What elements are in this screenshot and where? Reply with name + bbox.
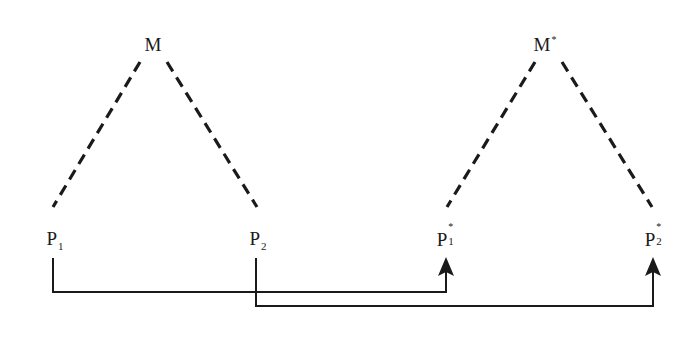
node-m-star-sup: * (551, 34, 556, 45)
node-p2: P2 (249, 229, 266, 248)
arrow-connectors (53, 258, 653, 306)
edge-mstar-p2star (562, 62, 652, 207)
edge-mstar-p1star (447, 62, 535, 207)
node-p2-star-sup: * (656, 222, 661, 232)
node-p1-star-sub: 1 (448, 236, 454, 247)
node-p1-sub: 1 (58, 240, 64, 252)
node-p1-star-sup: * (448, 222, 453, 232)
edge-m-p1 (53, 62, 140, 207)
arrowheads (438, 257, 661, 276)
node-p1-star: P*1 (437, 227, 456, 249)
node-p2-sub: 2 (261, 240, 267, 252)
node-p2-star-scripts: *2 (655, 227, 663, 246)
diagram-canvas (0, 0, 698, 337)
dashed-edges (53, 62, 652, 207)
connector-p2-to-p2star (256, 258, 653, 306)
mapping-diagram: M M* P1 P2 P*1 P*2 (0, 0, 698, 337)
connector-p1-to-p1star (53, 258, 446, 292)
node-m-base: M (145, 34, 162, 55)
node-p2-star-base: P (645, 229, 656, 250)
node-p2-star-sub: 2 (656, 236, 662, 247)
node-p1-star-base: P (437, 229, 448, 250)
node-p1: P1 (46, 229, 63, 248)
node-m-star: M* (534, 35, 557, 54)
node-p1-star-scripts: *1 (447, 227, 455, 246)
node-p1-base: P (46, 228, 57, 249)
node-m: M (145, 35, 162, 54)
node-p2-base: P (249, 228, 260, 249)
node-m-star-base: M (534, 34, 551, 55)
edge-m-p2 (167, 62, 257, 207)
node-p2-star: P*2 (645, 227, 664, 249)
